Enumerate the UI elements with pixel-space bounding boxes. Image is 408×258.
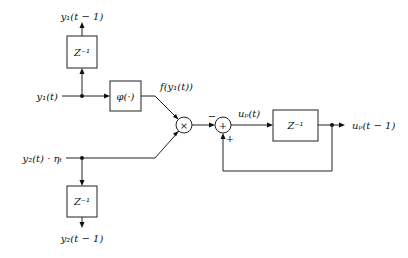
label-delay-right: Z⁻¹ bbox=[286, 120, 303, 131]
label-y2-delayed: y₂(t − 1) bbox=[60, 233, 104, 244]
arrow-up-delayed bbox=[339, 123, 345, 128]
label-delay-bottom: Z⁻¹ bbox=[73, 196, 90, 207]
label-y2-input: y₂(t) · ηₜ bbox=[22, 153, 63, 164]
arrow-y1-delayed bbox=[80, 22, 85, 28]
sign-minus: − bbox=[208, 111, 216, 122]
arrow-to-delay-top bbox=[80, 68, 85, 74]
label-phi: φ(·) bbox=[117, 91, 135, 102]
block-diagram: y₁(t − 1) Z⁻¹ y₁(t) φ(·) f(y₁(t)) × + − … bbox=[0, 0, 408, 258]
label-y1-delayed: y₁(t − 1) bbox=[60, 11, 104, 22]
arrow-feedback-to-sum bbox=[221, 133, 226, 139]
label-f-y1: f(y₁(t)) bbox=[159, 81, 193, 92]
label-up-delayed: uₚ(t − 1) bbox=[352, 120, 395, 131]
label-y1-input: y₁(t) bbox=[36, 91, 59, 102]
arrow-to-sum bbox=[209, 123, 215, 128]
arrow-to-delay-bottom bbox=[80, 180, 85, 186]
multiply-icon: × bbox=[180, 120, 188, 131]
arrow-y2-delayed bbox=[80, 222, 85, 228]
wire-y2-to-mult bbox=[66, 131, 179, 158]
plus-icon: + bbox=[219, 120, 227, 131]
sign-plus: + bbox=[226, 133, 234, 144]
label-up: uₚ(t) bbox=[238, 108, 260, 119]
arrow-to-delay-right bbox=[267, 123, 273, 128]
wire-phi-to-mult bbox=[141, 96, 179, 120]
arrow-to-phi bbox=[104, 94, 110, 99]
label-delay-top: Z⁻¹ bbox=[73, 47, 90, 58]
arrow-to-mult-bottom bbox=[173, 131, 179, 137]
